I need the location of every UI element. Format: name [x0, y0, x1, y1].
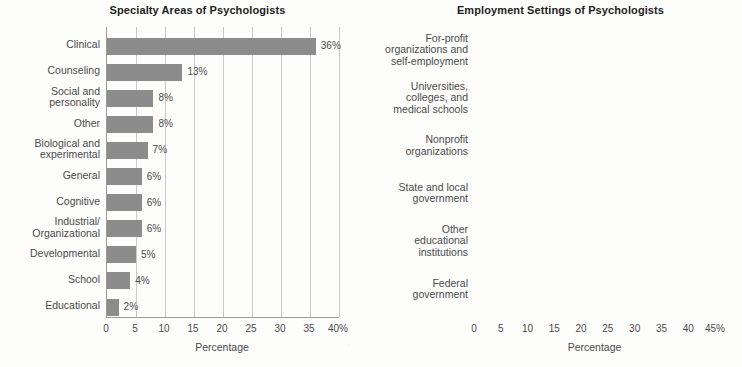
bar [107, 194, 142, 211]
category-label: Counseling [2, 65, 100, 77]
bar [107, 142, 148, 159]
x-axis-title: Percentage [195, 341, 249, 353]
bar [107, 64, 182, 81]
x-tick-label: 10 [522, 323, 533, 334]
x-tick-label: 15 [549, 323, 560, 334]
chart-panel-specialty-areas: Specialty Areas of Psychologists 36%13%8… [0, 0, 371, 367]
gridline [223, 27, 224, 317]
chart-title-right: Employment Settings of Psychologists [371, 4, 742, 16]
x-tick-label: 35 [303, 323, 314, 334]
chart-title-left: Specialty Areas of Psychologists [0, 4, 371, 16]
category-label: Federal government [370, 278, 468, 301]
category-label: Cognitive [2, 196, 100, 208]
x-tick-label: 20 [216, 323, 227, 334]
category-label: Other [2, 118, 100, 130]
category-label: Nonprofit organizations [370, 134, 468, 157]
bar [107, 246, 136, 263]
category-label: General [2, 170, 100, 182]
category-label: School [2, 274, 100, 286]
gridline [310, 27, 311, 317]
x-axis-title: Percentage [568, 341, 622, 353]
gridline [339, 27, 340, 317]
category-label: Clinical [2, 39, 100, 51]
x-tick-label: 0 [103, 323, 109, 334]
bar-value-label: 6% [147, 198, 161, 208]
category-label: Universities, colleges, and medical scho… [370, 81, 468, 116]
gridline [252, 27, 253, 317]
bar [107, 220, 142, 237]
category-label: Social and personality [2, 86, 100, 109]
bar-value-label: 2% [124, 302, 138, 312]
bar [107, 168, 142, 185]
gridline [281, 27, 282, 317]
bar [107, 116, 153, 133]
bar-value-label: 5% [141, 250, 155, 260]
x-tick-label: 35 [656, 323, 667, 334]
category-label: Other educational institutions [370, 224, 468, 259]
bar-value-label: 6% [147, 224, 161, 234]
bar [107, 90, 153, 107]
category-label: Biological and experimental [2, 138, 100, 161]
x-tick-label: 0 [471, 323, 477, 334]
bar [107, 38, 316, 55]
bar-value-label: 13% [187, 67, 207, 77]
x-tick-label: 25 [602, 323, 613, 334]
x-tick-label: 45% [705, 323, 725, 334]
bar-value-label: 4% [135, 276, 149, 286]
x-tick-label: 5 [498, 323, 504, 334]
bar-value-label: 6% [147, 172, 161, 182]
plot-area-left: 36%13%8%8%7%6%6%6%5%4%2% [106, 27, 339, 318]
x-tick-label: 30 [629, 323, 640, 334]
category-label: Industrial/ Organizational [2, 216, 100, 239]
bar [107, 299, 119, 316]
x-tick-label: 30 [274, 323, 285, 334]
category-label: Educational [2, 300, 100, 312]
category-label: State and local government [370, 182, 468, 205]
bar-value-label: 7% [153, 145, 167, 155]
bar-value-label: 8% [158, 93, 172, 103]
x-tick-label: 25 [245, 323, 256, 334]
x-tick-label: 10 [158, 323, 169, 334]
x-tick-label: 20 [576, 323, 587, 334]
figure-page: Specialty Areas of Psychologists 36%13%8… [0, 0, 742, 367]
x-tick-label: 5 [132, 323, 138, 334]
bar-value-label: 8% [158, 119, 172, 129]
x-tick-label: 40% [328, 323, 348, 334]
category-label: Developmental [2, 248, 100, 260]
x-tick-label: 15 [187, 323, 198, 334]
x-tick-label: 40 [683, 323, 694, 334]
category-label: For-profit organizations and self-employ… [370, 33, 468, 68]
bar [107, 272, 130, 289]
bar-value-label: 36% [321, 41, 341, 51]
